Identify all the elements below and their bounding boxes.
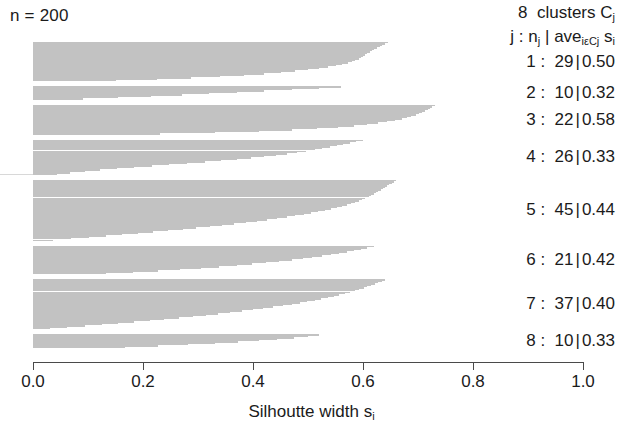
legend-row-average: 0.33 bbox=[582, 331, 615, 350]
legend-row-index: 1 bbox=[526, 52, 535, 71]
legend-row-separator: | bbox=[573, 200, 581, 219]
legend-row-colon: : bbox=[536, 110, 555, 129]
silhouette-bar bbox=[33, 240, 53, 241]
legend-row: 3 : 22|0.58 bbox=[526, 110, 615, 130]
legend-header-n-subscript: j bbox=[538, 35, 540, 47]
silhouette-plot-figure: n = 200 0.00.20.40.60.81.0 Silhoutte wid… bbox=[0, 0, 623, 431]
legend-row: 8 : 10|0.33 bbox=[526, 331, 615, 351]
x-axis-line bbox=[33, 362, 583, 363]
legend-clusters-word: clusters bbox=[537, 3, 596, 22]
legend-row-separator: | bbox=[573, 294, 581, 313]
legend-row: 6 : 21|0.42 bbox=[526, 250, 615, 270]
legend-header-colon: : bbox=[519, 27, 524, 46]
silhouette-bar bbox=[33, 273, 106, 274]
legend-header-bar: | bbox=[545, 27, 549, 46]
x-axis-tick bbox=[583, 362, 584, 370]
silhouette-bar bbox=[33, 80, 116, 81]
legend-header-ave-subscript: iεCj bbox=[582, 35, 600, 47]
legend-row-colon: : bbox=[536, 294, 555, 313]
legend-row: 2 : 10|0.32 bbox=[526, 83, 615, 103]
legend-cluster-count: 8 bbox=[518, 3, 527, 22]
legend-row-separator: | bbox=[573, 147, 581, 166]
legend-row-colon: : bbox=[536, 147, 555, 166]
legend-row: 7 : 37|0.40 bbox=[526, 294, 615, 314]
legend-header-ave: ave bbox=[554, 27, 581, 46]
legend-row-separator: | bbox=[573, 110, 581, 129]
x-axis-tick bbox=[33, 362, 34, 370]
legend-cluster-symbol: C bbox=[600, 3, 612, 22]
legend-row-average: 0.33 bbox=[582, 147, 615, 166]
legend-header-s-subscript: i bbox=[613, 35, 615, 47]
legend-row-colon: : bbox=[536, 250, 555, 269]
silhouette-bars-area bbox=[33, 42, 583, 348]
x-axis-tick-label: 0.6 bbox=[333, 372, 393, 392]
legend-row-average: 0.32 bbox=[582, 83, 615, 102]
x-axis-tick bbox=[363, 362, 364, 370]
legend-row-index: 3 bbox=[526, 110, 535, 129]
silhouette-bar bbox=[33, 347, 125, 348]
legend-row-size: 10 bbox=[555, 331, 574, 350]
legend-row-separator: | bbox=[573, 250, 581, 269]
x-axis-tick bbox=[253, 362, 254, 370]
cluster-legend: 8 clusters Cj j : nj | aveiεCj si bbox=[405, 4, 615, 53]
legend-row-colon: : bbox=[536, 200, 555, 219]
x-axis-tick-label: 0.4 bbox=[223, 372, 283, 392]
silhouette-bar bbox=[33, 328, 50, 329]
legend-row-separator: | bbox=[573, 83, 581, 102]
legend-row-size: 10 bbox=[555, 83, 574, 102]
legend-row-index: 7 bbox=[526, 294, 535, 313]
legend-row-average: 0.58 bbox=[582, 110, 615, 129]
legend-row-index: 2 bbox=[526, 83, 535, 102]
legend-row-size: 22 bbox=[555, 110, 574, 129]
legend-row-size: 29 bbox=[555, 52, 574, 71]
legend-column-header: j : nj | aveiεCj si bbox=[405, 28, 615, 47]
legend-row: 4 : 26|0.33 bbox=[526, 147, 615, 167]
x-axis-tick bbox=[143, 362, 144, 370]
silhouette-bar bbox=[33, 174, 57, 175]
legend-row-index: 8 bbox=[526, 331, 535, 350]
legend-row-average: 0.50 bbox=[582, 52, 615, 71]
legend-row-index: 4 bbox=[526, 147, 535, 166]
silhouette-bar bbox=[33, 133, 160, 134]
cluster-divider-mark bbox=[0, 174, 33, 175]
legend-header-n: n bbox=[528, 27, 537, 46]
x-axis-title-subscript: i bbox=[372, 410, 374, 422]
legend-header-s: s bbox=[604, 27, 613, 46]
sample-size-label: n = 200 bbox=[10, 6, 69, 26]
legend-row-colon: : bbox=[536, 83, 555, 102]
legend-row-index: 5 bbox=[526, 200, 535, 219]
x-axis-tick-label: 0.0 bbox=[3, 372, 63, 392]
legend-row-separator: | bbox=[573, 52, 581, 71]
x-axis-tick-label: 0.2 bbox=[113, 372, 173, 392]
legend-row-size: 26 bbox=[555, 147, 574, 166]
legend-header-j: j bbox=[510, 27, 514, 46]
x-axis-tick-label: 1.0 bbox=[553, 372, 613, 392]
legend-row-size: 37 bbox=[555, 294, 574, 313]
legend-row-separator: | bbox=[573, 331, 581, 350]
legend-row-size: 45 bbox=[555, 200, 574, 219]
legend-row-colon: : bbox=[536, 52, 555, 71]
x-axis-title: Silhoutte width si bbox=[0, 402, 623, 422]
legend-title: 8 clusters Cj bbox=[405, 4, 615, 23]
legend-row: 1 : 29|0.50 bbox=[526, 52, 615, 72]
legend-row-colon: : bbox=[536, 331, 555, 350]
legend-row-average: 0.44 bbox=[582, 200, 615, 219]
legend-row-average: 0.40 bbox=[582, 294, 615, 313]
legend-row-index: 6 bbox=[526, 250, 535, 269]
x-axis-tick bbox=[473, 362, 474, 370]
x-axis-tick-label: 0.8 bbox=[443, 372, 503, 392]
legend-row: 5 : 45|0.44 bbox=[526, 200, 615, 220]
legend-cluster-symbol-subscript: j bbox=[613, 11, 615, 23]
x-axis-title-text: Silhoutte width s bbox=[248, 402, 372, 421]
legend-row-size: 21 bbox=[555, 250, 574, 269]
silhouette-bar bbox=[33, 98, 83, 99]
legend-row-average: 0.42 bbox=[582, 250, 615, 269]
